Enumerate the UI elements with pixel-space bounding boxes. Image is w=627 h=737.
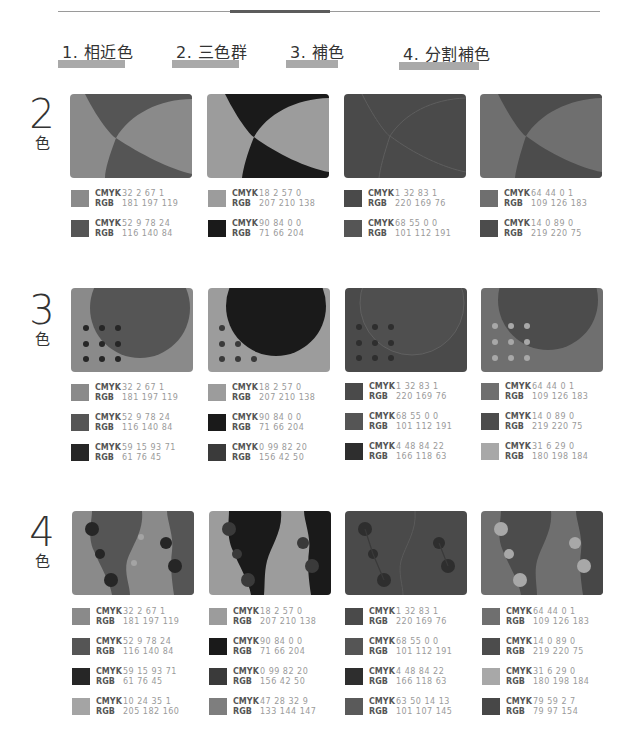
color-swatch — [208, 190, 226, 207]
color-swatch — [208, 220, 226, 237]
rgb-value: 71 66 204 — [259, 423, 304, 432]
cmyk-label: CMYK — [506, 667, 532, 676]
column-header-label: 1. 相近色 — [58, 44, 125, 62]
swatch-entry: CMYK 79 59 2 7 RGB 79 97 154 — [482, 697, 602, 717]
rgb-value: 207 210 138 — [260, 617, 316, 626]
column-header-complementary: 3. 補色 — [286, 44, 338, 68]
cmyk-value: 18 2 57 0 — [259, 383, 302, 392]
swatch-entry: CMYK 90 84 0 0 RGB 71 66 204 — [209, 637, 329, 657]
swatch-entry: CMYK 1 32 83 1 RGB 220 169 76 — [344, 189, 464, 209]
rgb-value: 156 42 50 — [259, 453, 304, 462]
sample-card-split-2 — [480, 94, 602, 178]
swatch-entry: CMYK 52 9 78 24 RGB 116 140 84 — [72, 637, 192, 657]
swatch-entry: CMYK 68 55 0 0 RGB 101 112 191 — [344, 219, 464, 239]
cmyk-label: CMYK — [504, 189, 530, 198]
color-swatch — [481, 413, 499, 430]
color-swatch — [71, 190, 89, 207]
color-swatch — [71, 220, 89, 237]
cmyk-label: CMYK — [369, 442, 395, 451]
rgb-value: 109 126 183 — [531, 199, 587, 208]
row-label-4-colors: 4 色 — [22, 512, 62, 570]
swatch-entry: CMYK 32 2 67 1 RGB 181 197 119 — [72, 607, 192, 627]
cmyk-label: CMYK — [95, 413, 121, 422]
rgb-label: RGB — [232, 229, 251, 238]
color-swatch — [482, 698, 500, 715]
cmyk-value: 68 55 0 0 — [396, 412, 439, 421]
swatch-entry: CMYK 31 6 29 0 RGB 180 198 184 — [481, 442, 601, 462]
swatch-entry: CMYK 14 0 89 0 RGB 219 220 75 — [481, 412, 601, 432]
color-swatch — [209, 608, 227, 625]
color-swatch — [481, 383, 499, 400]
rgb-label: RGB — [95, 199, 114, 208]
cmyk-label: CMYK — [368, 189, 394, 198]
rgb-value: 220 169 76 — [395, 199, 446, 208]
cmyk-label: CMYK — [232, 189, 258, 198]
cmyk-value: 1 32 83 1 — [396, 382, 439, 391]
rgb-label: RGB — [96, 677, 115, 686]
column-header-label: 3. 補色 — [286, 44, 338, 62]
rgb-label: RGB — [95, 423, 114, 432]
rgb-label: RGB — [505, 392, 524, 401]
color-swatch — [344, 190, 362, 207]
cmyk-value: 52 9 78 24 — [122, 219, 170, 228]
color-swatch — [71, 414, 89, 431]
color-swatch — [208, 414, 226, 431]
cmyk-label: CMYK — [232, 443, 258, 452]
swatch-entry: CMYK 32 2 67 1 RGB 181 197 119 — [71, 383, 191, 403]
swatch-entry: CMYK 59 15 93 71 RGB 61 76 45 — [72, 667, 192, 687]
color-swatch — [345, 698, 363, 715]
row-number: 2 — [22, 94, 62, 134]
color-swatch — [71, 384, 89, 401]
row-number: 4 — [22, 512, 62, 552]
cmyk-label: CMYK — [369, 382, 395, 391]
sample-card-analogous-3 — [71, 288, 193, 372]
cmyk-label: CMYK — [95, 443, 121, 452]
cmyk-label: CMYK — [369, 697, 395, 706]
swatch-entry: CMYK 52 9 78 24 RGB 116 140 84 — [71, 413, 191, 433]
cmyk-label: CMYK — [506, 607, 532, 616]
swatch-entry: CMYK 1 32 83 1 RGB 220 169 76 — [345, 607, 465, 627]
swatch-entry: CMYK 18 2 57 0 RGB 207 210 138 — [208, 189, 328, 209]
rgb-label: RGB — [368, 229, 387, 238]
color-swatch — [482, 668, 500, 685]
rgb-value: 116 140 84 — [122, 423, 173, 432]
rgb-label: RGB — [506, 707, 525, 716]
rgb-value: 156 42 50 — [260, 677, 305, 686]
cmyk-label: CMYK — [504, 219, 530, 228]
cmyk-value: 52 9 78 24 — [122, 413, 170, 422]
cmyk-value: 14 0 89 0 — [532, 412, 575, 421]
rgb-label: RGB — [233, 707, 252, 716]
rgb-value: 101 112 191 — [396, 422, 452, 431]
sample-card-triad-4 — [209, 511, 331, 595]
swatch-entry: CMYK 4 48 84 22 RGB 166 118 63 — [345, 667, 465, 687]
cmyk-label: CMYK — [505, 442, 531, 451]
rgb-value: 219 220 75 — [532, 422, 583, 431]
rgb-value: 61 76 45 — [123, 677, 163, 686]
cmyk-label: CMYK — [96, 697, 122, 706]
cmyk-value: 47 28 32 9 — [260, 697, 308, 706]
rgb-value: 180 198 184 — [532, 452, 588, 461]
rgb-value: 219 220 75 — [533, 647, 584, 656]
rgb-label: RGB — [232, 199, 251, 208]
sample-card-split-4 — [481, 511, 603, 595]
cmyk-value: 64 44 0 1 — [531, 189, 574, 198]
rgb-value: 207 210 138 — [259, 199, 315, 208]
sample-card-split-3 — [481, 288, 603, 372]
cmyk-value: 14 0 89 0 — [531, 219, 574, 228]
rgb-label: RGB — [504, 199, 523, 208]
cmyk-label: CMYK — [369, 607, 395, 616]
cmyk-label: CMYK — [233, 607, 259, 616]
column-header-split-complementary: 4. 分割補色 — [399, 46, 479, 70]
rgb-value: 181 197 119 — [122, 393, 178, 402]
rgb-value: 205 182 160 — [123, 707, 179, 716]
swatch-entry: CMYK 59 15 93 71 RGB 61 76 45 — [71, 443, 191, 463]
rgb-value: 61 76 45 — [122, 453, 162, 462]
swatch-entry: CMYK 14 0 89 0 RGB 219 220 75 — [482, 637, 602, 657]
rgb-label: RGB — [368, 199, 387, 208]
rgb-value: 116 140 84 — [123, 647, 174, 656]
sample-card-analogous-4 — [72, 511, 194, 595]
cmyk-value: 0 99 82 20 — [259, 443, 307, 452]
cmyk-label: CMYK — [506, 697, 532, 706]
rgb-label: RGB — [369, 677, 388, 686]
cmyk-value: 64 44 0 1 — [532, 382, 575, 391]
